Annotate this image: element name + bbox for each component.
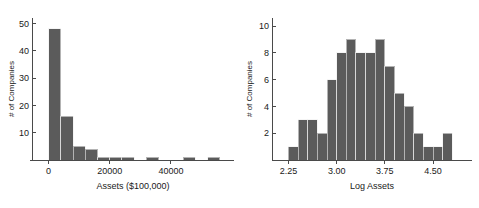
histogram-bar — [61, 116, 73, 160]
chart-panel-assets: 020000400001020304050Assets ($100,000)# … — [0, 0, 239, 208]
log-assets-histogram-plot: 2.253.003.754.50246810Log Assets# of Com… — [240, 0, 479, 208]
histogram-bar — [308, 120, 318, 160]
x-tick-label: 20000 — [97, 166, 122, 176]
y-tick-label: 6 — [264, 75, 269, 85]
y-tick-label: 40 — [19, 46, 29, 56]
y-tick-label: 8 — [264, 48, 269, 58]
y-tick-label: 10 — [19, 128, 29, 138]
chart-panel-log-assets: 2.253.003.754.50246810Log Assets# of Com… — [240, 0, 479, 208]
y-tick-label: 10 — [259, 21, 269, 31]
x-axis-title: Log Assets — [350, 181, 395, 191]
histogram-bar — [337, 53, 347, 160]
histogram-bar — [85, 149, 97, 160]
histogram-bar — [298, 120, 308, 160]
histogram-bar — [73, 146, 85, 160]
x-tick-label: 3.00 — [328, 166, 346, 176]
histogram-bar — [375, 39, 385, 160]
histogram-bar — [288, 147, 298, 160]
histogram-bar — [327, 80, 337, 160]
x-axis-title: Assets ($100,000) — [96, 181, 169, 191]
histogram-bar — [49, 29, 61, 160]
x-tick-label: 4.50 — [424, 166, 442, 176]
histogram-bar — [385, 66, 395, 160]
x-tick-label: 0 — [46, 166, 51, 176]
y-tick-label: 30 — [19, 73, 29, 83]
histogram-bar — [366, 53, 376, 160]
y-tick-label: 2 — [264, 128, 269, 138]
x-tick-label: 40000 — [158, 166, 183, 176]
histogram-bar — [404, 106, 414, 160]
y-axis-title: # of Companies — [245, 61, 254, 117]
y-axis-title: # of Companies — [7, 61, 16, 117]
assets-histogram-plot: 020000400001020304050Assets ($100,000)# … — [0, 0, 239, 208]
histogram-bar — [356, 53, 366, 160]
histogram-bar — [433, 147, 443, 160]
y-tick-label: 50 — [19, 19, 29, 29]
histogram-bar — [414, 133, 424, 160]
histogram-bar — [423, 147, 433, 160]
histogram-bar — [443, 133, 453, 160]
y-tick-label: 4 — [264, 102, 269, 112]
histogram-bar — [317, 133, 327, 160]
y-tick-label: 20 — [19, 101, 29, 111]
figure-two-histograms: 020000400001020304050Assets ($100,000)# … — [0, 0, 479, 208]
x-tick-label: 2.25 — [280, 166, 298, 176]
x-tick-label: 3.75 — [376, 166, 394, 176]
histogram-bar — [395, 93, 405, 160]
histogram-bar — [346, 39, 356, 160]
